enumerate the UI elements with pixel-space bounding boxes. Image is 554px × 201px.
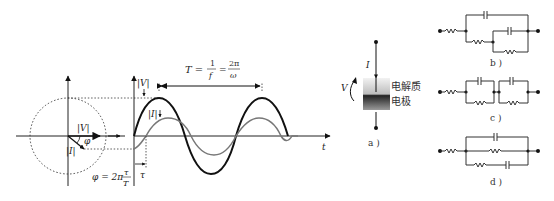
voltage-arc: [350, 80, 355, 101]
series-resistor-icon: [445, 29, 457, 33]
phasor-v-label: |V|: [77, 123, 90, 134]
caption-a: a ): [368, 138, 380, 148]
period-f1-num: 1: [210, 59, 215, 68]
phase-formula-num: τ: [124, 168, 129, 177]
cell-voltage-label: V: [341, 83, 349, 93]
circuit-d: [438, 133, 540, 169]
period-f2-num: 2π: [229, 59, 239, 68]
electrochemical-cell: I 电解质 电极 V a ): [341, 40, 421, 148]
phase-formula-lhs: φ = 2π: [92, 172, 124, 182]
waveform-plot: t T = 1 f = 2π ω |V| |I| τ: [134, 59, 330, 186]
phase-formula-den: T: [123, 179, 129, 188]
circuit-b: [438, 11, 540, 54]
period-T-label: T =: [185, 64, 203, 75]
period-f1-den: f: [208, 71, 214, 80]
electrode-label: 电极: [391, 95, 411, 107]
caption-c: c ): [490, 113, 501, 123]
phasor-diagram: |V| φ |I| φ = 2π τ T: [16, 76, 158, 188]
caption-d: d ): [490, 177, 502, 187]
equivalent-circuits: [438, 11, 540, 169]
tau-label: τ: [140, 170, 146, 180]
wave-i-amp-label: |I|: [148, 109, 158, 120]
impedance-diagram: |V| φ |I| φ = 2π τ T t T = 1 f = 2π ω: [0, 0, 554, 201]
phi-arc: [77, 136, 80, 143]
phasor-phi-label: φ: [84, 136, 91, 146]
circuit-c: [438, 77, 540, 105]
phasor-i-label: |I|: [66, 146, 76, 157]
t-axis-label: t: [322, 142, 326, 152]
wave-v-amp-label: |V|: [137, 78, 150, 89]
electrolyte-label: 电解质: [391, 80, 421, 92]
period-f2-den: ω: [230, 71, 237, 80]
cell-current-label: I: [365, 60, 370, 70]
caption-b: b ): [490, 58, 502, 68]
period-eq: =: [219, 65, 227, 75]
